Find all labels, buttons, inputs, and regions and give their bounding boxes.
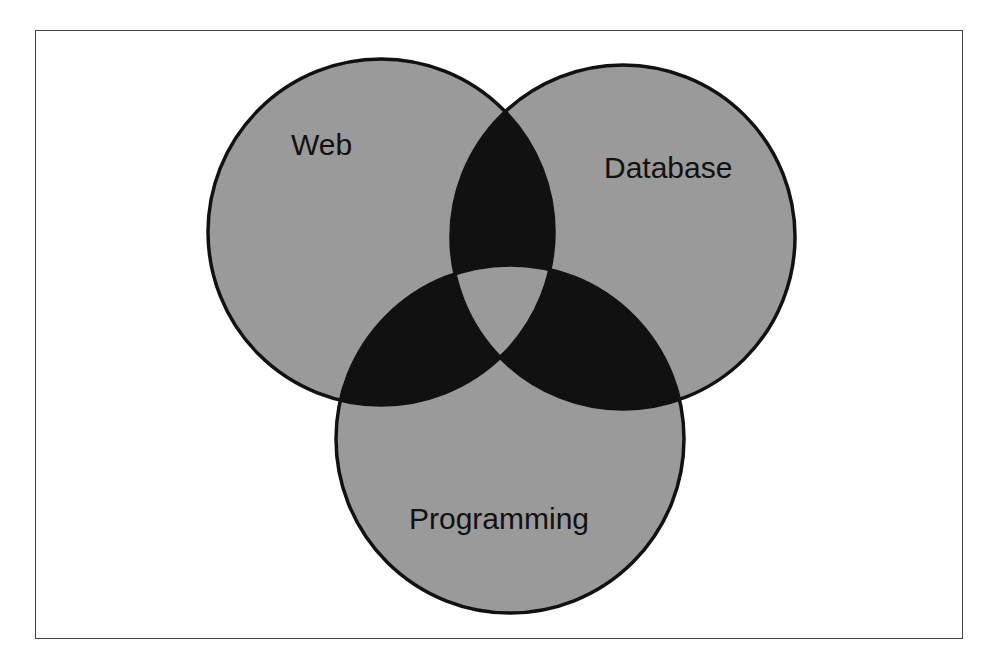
web-label: Web: [291, 128, 352, 161]
venn-diagram: Web Database Programming: [0, 0, 998, 668]
programming-label: Programming: [409, 502, 589, 535]
database-label: Database: [604, 151, 732, 184]
